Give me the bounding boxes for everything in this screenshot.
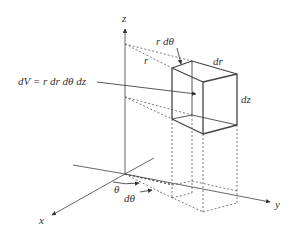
y-axis <box>125 174 270 202</box>
dz-label: dz <box>241 93 252 105</box>
back-diagonal-axis <box>125 158 154 174</box>
leader-arrows <box>97 48 196 192</box>
z-axis-label: z <box>121 12 127 24</box>
cylindrical-volume-element-diagram: z x y r r dθ dr dz dV = r dr dθ dz θ dθ <box>0 0 297 234</box>
dv-leader <box>97 82 196 94</box>
x-axis-label: x <box>38 214 44 226</box>
rdtheta-leader <box>177 48 181 64</box>
dv-formula-label: dV = r dr dθ dz <box>18 75 87 87</box>
y-axis-label: y <box>274 198 280 210</box>
r-dtheta-label: r dθ <box>156 35 175 47</box>
volume-element-box <box>172 61 237 134</box>
theta-label: θ <box>114 183 120 195</box>
back-horizontal-axis <box>73 165 125 174</box>
dtheta-arrow <box>140 190 152 192</box>
dtheta-label: dθ <box>124 192 136 204</box>
dr-label: dr <box>213 55 224 67</box>
r-label: r <box>144 54 149 66</box>
